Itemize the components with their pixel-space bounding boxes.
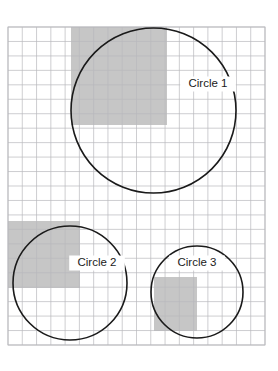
circle-label-3: Circle 3 (178, 256, 217, 268)
circle-label-1: Circle 1 (189, 77, 228, 89)
shaded-region-2 (8, 221, 80, 288)
shaded-region-3 (154, 277, 197, 331)
figure-root: Circle 1Circle 2Circle 3 (0, 0, 278, 371)
circles-grid-figure: Circle 1Circle 2Circle 3 (0, 0, 278, 371)
circle-label-2: Circle 2 (78, 256, 117, 268)
